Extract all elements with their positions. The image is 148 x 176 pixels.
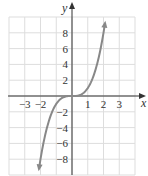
y-tick-label: 4 (63, 58, 69, 70)
x-tick-label: 2 (101, 98, 107, 110)
y-tick-label: −2 (56, 106, 68, 118)
cubic-function-graph: x y −3−21238642−2−4−6−8 (0, 0, 148, 176)
x-axis-label: x (140, 96, 147, 110)
y-axis-arrow-icon (69, 2, 75, 9)
x-tick-label: −2 (35, 98, 47, 110)
curve-arrow-down-icon (37, 164, 43, 171)
axes: x y (8, 1, 147, 175)
x-tick-label: 3 (117, 98, 123, 110)
y-tick-label: 6 (63, 43, 69, 55)
x-tick-label: −3 (19, 98, 31, 110)
y-tick-label: −4 (56, 122, 68, 134)
x-tick-label: 1 (85, 98, 91, 110)
y-tick-label: 2 (63, 74, 69, 86)
y-tick-label: 8 (63, 27, 69, 39)
y-tick-label: −8 (56, 153, 68, 165)
y-axis-label: y (61, 1, 68, 15)
curve-arrow-up-icon (101, 21, 107, 28)
y-tick-label: −6 (56, 137, 68, 149)
